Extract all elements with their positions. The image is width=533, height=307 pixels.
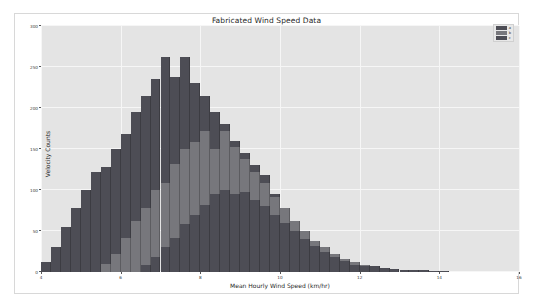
histogram-bar: [51, 247, 61, 272]
histogram-bar: [390, 270, 400, 272]
legend-item[interactable]: b: [496, 31, 511, 35]
histogram-bar: [131, 221, 141, 272]
x-tick-label: 16: [516, 275, 521, 280]
histogram-bar: [280, 223, 290, 272]
histogram-bar: [121, 238, 131, 272]
legend-label: b: [509, 31, 511, 35]
histogram-bar: [91, 172, 101, 272]
histogram-bar: [429, 271, 439, 272]
histogram-bar: [290, 231, 300, 272]
legend-label: a: [509, 26, 511, 30]
y-tick-mark: [39, 230, 41, 231]
legend-swatch: [496, 36, 507, 40]
histogram-bar: [141, 265, 151, 272]
x-tick-mark: [121, 272, 122, 274]
histogram-bar: [101, 264, 111, 272]
histogram-bar: [360, 266, 370, 272]
histogram-bar: [161, 247, 171, 272]
x-tick-label: 4: [40, 275, 43, 280]
gridline-vertical: [519, 26, 520, 272]
y-tick-mark: [39, 107, 41, 108]
histogram-bar: [71, 208, 81, 272]
legend-label: c: [509, 36, 511, 40]
histogram-bar: [419, 270, 429, 272]
chart-figure: Fabricated Wind Speed Data 0501001502002…: [14, 13, 519, 294]
x-tick-mark: [41, 272, 42, 274]
histogram-bar: [409, 270, 419, 272]
histogram-bar: [350, 265, 360, 272]
x-tick-label: 8: [199, 275, 202, 280]
histogram-bar: [101, 167, 111, 272]
y-tick-label: 300: [30, 24, 38, 29]
histogram-bar: [190, 215, 200, 272]
histogram-bar: [380, 270, 390, 272]
histogram-bar: [310, 246, 320, 272]
histogram-bar: [240, 192, 250, 272]
y-axis-label: Velocity Counts: [44, 130, 51, 176]
histogram-bar: [210, 194, 220, 272]
histogram-bar: [41, 262, 51, 272]
chart-title: Fabricated Wind Speed Data: [15, 16, 518, 25]
x-tick-mark: [200, 272, 201, 274]
histogram-bar: [170, 238, 180, 272]
histogram-bar: [320, 252, 330, 272]
histogram-bar: [370, 268, 380, 272]
x-tick-mark: [360, 272, 361, 274]
histogram-bar: [200, 205, 210, 272]
histogram-bar: [220, 190, 230, 272]
legend-item[interactable]: c: [496, 36, 511, 40]
y-tick-label: 200: [30, 106, 38, 111]
plot-area: 050100150200250300 46810121416: [41, 26, 519, 272]
histogram-bar: [151, 257, 161, 272]
legend-swatch: [496, 31, 507, 35]
histogram-bar: [111, 254, 121, 272]
histogram-bar: [61, 227, 71, 272]
y-tick-label: 50: [33, 229, 38, 234]
y-tick-mark: [39, 148, 41, 149]
y-tick-mark: [39, 25, 41, 26]
histogram-bar: [81, 190, 91, 272]
y-tick-mark: [39, 189, 41, 190]
histogram-bars: [41, 26, 519, 272]
y-tick-label: 150: [30, 147, 38, 152]
x-tick-label: 14: [437, 275, 442, 280]
histogram-bar: [400, 271, 410, 272]
x-axis-label: Mean Hourly Wind Speed (km/hr): [41, 282, 519, 289]
histogram-bar: [180, 224, 190, 272]
histogram-bar: [260, 206, 270, 272]
histogram-bar: [330, 257, 340, 272]
x-tick-label: 6: [119, 275, 122, 280]
x-tick-mark: [519, 272, 520, 274]
x-tick-mark: [439, 272, 440, 274]
histogram-bar: [340, 261, 350, 272]
histogram-bar: [300, 239, 310, 272]
x-tick-mark: [280, 272, 281, 274]
histogram-bar: [250, 200, 260, 272]
y-tick-label: 100: [30, 188, 38, 193]
chart-legend[interactable]: abc: [493, 24, 514, 42]
y-tick-mark: [39, 66, 41, 67]
y-tick-label: 250: [30, 65, 38, 70]
histogram-bar: [270, 215, 280, 272]
histogram-bar: [141, 208, 151, 272]
x-tick-label: 10: [277, 275, 282, 280]
x-tick-label: 12: [357, 275, 362, 280]
y-tick-label: 0: [35, 270, 38, 275]
histogram-bar: [439, 271, 449, 272]
legend-swatch: [496, 26, 507, 30]
histogram-bar: [230, 194, 240, 272]
legend-item[interactable]: a: [496, 26, 511, 30]
